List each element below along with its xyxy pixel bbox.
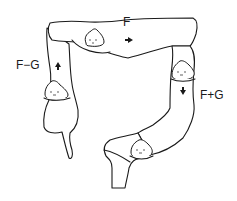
label-transverse: F [123, 16, 130, 28]
label-descending: F+G [200, 89, 224, 101]
label-ascending: F−G [16, 59, 40, 71]
